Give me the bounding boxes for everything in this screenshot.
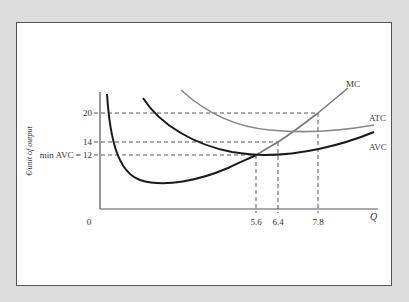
y-tick-14: 14 bbox=[83, 137, 93, 147]
avc-label: AVC bbox=[369, 142, 387, 152]
y-tick-min-avc: min AVC = 12 bbox=[40, 150, 92, 160]
y-tick-20: 20 bbox=[83, 108, 93, 118]
avc-curve bbox=[143, 98, 374, 155]
x-axis-label: Q bbox=[370, 211, 378, 222]
atc-label: ATC bbox=[369, 113, 386, 123]
x-tick-7-8: 7.8 bbox=[312, 217, 324, 227]
reference-lines bbox=[94, 113, 318, 213]
origin-label: 0 bbox=[87, 217, 92, 227]
y-axis-label: €/unit of output bbox=[25, 126, 34, 176]
mc-curve-lower bbox=[107, 94, 256, 183]
cost-curves-chart: MC ATC AVC 20 14 min AVC = 12 5.6 6.4 7.… bbox=[0, 0, 409, 302]
x-tick-6-4: 6.4 bbox=[272, 217, 284, 227]
atc-curve bbox=[181, 90, 374, 132]
mc-label: MC bbox=[346, 79, 360, 89]
x-tick-5-6: 5.6 bbox=[250, 217, 262, 227]
